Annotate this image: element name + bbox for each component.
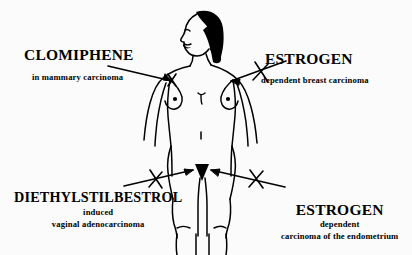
annotation-estrogen-breast: ESTROGEN dependent breast carcinoma xyxy=(265,50,369,86)
pubic-triangle xyxy=(195,164,209,181)
annotation-clomiphene: CLOMIPHENE in mammary carcinoma xyxy=(24,46,134,83)
diethylstilbestrol-heading: DIETHYLSTILBESTROL xyxy=(14,190,182,206)
sternum-mark xyxy=(201,95,202,104)
left-inner-arm-line xyxy=(155,83,166,146)
estrogen-endo-arrowhead xyxy=(211,169,220,176)
annotation-diethylstilbestrol: DIETHYLSTILBESTROL induced vaginal adeno… xyxy=(14,190,182,229)
left-nipple xyxy=(173,97,177,101)
crotch-right-line xyxy=(205,178,207,236)
estrogen-endometrium-heading: ESTROGEN xyxy=(281,201,398,218)
right-nipple xyxy=(226,97,230,101)
sternum-notch xyxy=(198,93,205,95)
crotch-left-line xyxy=(198,178,200,236)
diethylstilbestrol-caption-line2: vaginal adenocarcinoma xyxy=(14,220,182,230)
estrogen-endometrium-caption-line2: carcinoma of the endometrium xyxy=(281,232,398,242)
estrogen-breast-caption: dependent breast carcinoma xyxy=(261,76,369,86)
estrogen-breast-heading: ESTROGEN xyxy=(265,50,369,67)
clomiphene-caption: in mammary carcinoma xyxy=(32,73,134,83)
right-leg-outer xyxy=(226,199,231,238)
annotation-estrogen-endometrium: ESTROGEN dependent carcinoma of the endo… xyxy=(281,201,398,242)
diethylstilbestrol-caption-line1: induced xyxy=(14,208,182,218)
right-lower-leg-outer xyxy=(226,234,227,255)
medical-illustration-diagram: CLOMIPHENE in mammary carcinoma ESTROGEN… xyxy=(0,0,412,255)
estrogen-endometrium-caption-line1: dependent xyxy=(281,220,398,230)
pointer-annotations xyxy=(108,61,286,188)
right-knee-detail xyxy=(214,227,226,229)
estrogen-endo-pointer-line xyxy=(211,170,285,187)
clomiphene-heading: CLOMIPHENE xyxy=(24,46,134,63)
des-arrowhead xyxy=(184,169,193,175)
left-lower-leg-outer xyxy=(176,234,177,255)
